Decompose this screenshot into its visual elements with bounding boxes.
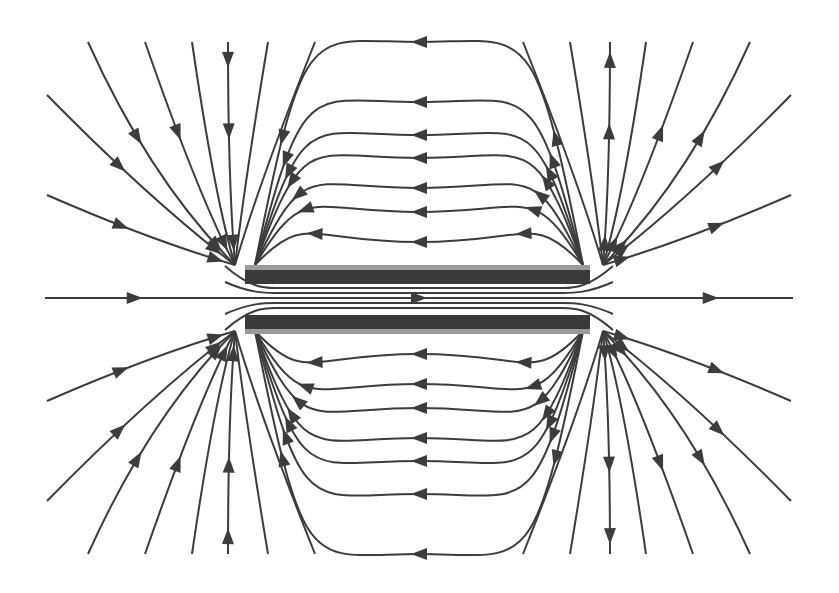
loop-field-line [255, 331, 583, 555]
outer-field-line [228, 331, 235, 554]
loop-field-line [255, 133, 583, 265]
arrow-icon [411, 236, 427, 248]
arrow-icon [411, 206, 427, 218]
arrow-icon [707, 217, 726, 234]
arrow-icon [112, 217, 131, 234]
outer-field-line [88, 42, 235, 265]
arrow-icon [411, 402, 427, 414]
arrow-icon [411, 348, 427, 360]
arrow-icon [652, 454, 669, 473]
outer-field-line [47, 331, 235, 501]
loop-field-line [255, 41, 583, 265]
arrow-icon [275, 449, 291, 467]
arrow-icon [604, 52, 616, 68]
arrow-icon [127, 292, 143, 304]
arrow-icon [603, 123, 615, 139]
outer-field-line [603, 331, 693, 554]
arrow-icon [206, 251, 225, 267]
arrow-icon [411, 432, 427, 444]
field-line-diagram [0, 0, 839, 593]
arrow-icon [296, 201, 315, 218]
loop-field-line [255, 184, 583, 265]
bottom-plate-edge [245, 329, 590, 334]
arrow-icon [548, 449, 564, 467]
arrow-icon [223, 123, 235, 139]
top-plate [245, 270, 590, 284]
arrow-icon [296, 378, 315, 395]
arrow-icon [703, 292, 719, 304]
arrow-icon [222, 52, 234, 68]
arrow-icon [523, 378, 542, 394]
arrow-icon [652, 123, 669, 142]
arrow-icon [206, 329, 225, 345]
arrow-icon [222, 528, 234, 544]
arrow-icon [603, 457, 615, 473]
arrow-icon [523, 201, 542, 217]
loop-field-line [255, 331, 583, 362]
outer-field-line [603, 331, 750, 554]
outer-field-line [603, 331, 791, 501]
outer-field-line [47, 95, 235, 265]
arrow-icon [515, 227, 532, 240]
arrow-icon [411, 488, 427, 500]
arrow-icon [306, 227, 322, 240]
loop-field-line [255, 331, 583, 463]
outer-field-line [603, 42, 750, 265]
loop-field-line [255, 207, 583, 265]
arrow-icon [411, 36, 427, 48]
outer-field-line [603, 95, 791, 265]
arrow-icon [169, 123, 186, 142]
outer-field-line [145, 331, 235, 554]
loop-field-line [255, 331, 583, 412]
arrow-icon [411, 548, 427, 560]
arrow-icon [707, 362, 726, 379]
arrow-icon [411, 129, 427, 141]
outer-field-line [88, 331, 235, 554]
arrow-icon [411, 378, 427, 390]
loop-field-line [255, 331, 583, 389]
arrow-icon [306, 356, 322, 369]
arrow-icon [691, 127, 710, 147]
loop-field-line [255, 234, 583, 265]
outer-field-line [145, 42, 235, 265]
outer-field-line [603, 42, 610, 265]
arrow-icon [169, 454, 186, 473]
arrow-icon [223, 457, 235, 473]
arrow-icon [515, 356, 532, 369]
arrow-icon [548, 128, 564, 146]
arrow-icon [411, 182, 427, 194]
outer-field-line [603, 331, 610, 554]
outer-field-line [603, 42, 693, 265]
arrow-icon [691, 449, 710, 469]
arrow-icon [128, 449, 147, 469]
bottom-plate [245, 315, 590, 329]
arrow-icon [411, 152, 427, 164]
arrow-icon [275, 128, 291, 146]
outer-field-line [228, 42, 235, 265]
arrow-icon [411, 455, 427, 467]
arrow-icon [128, 127, 147, 147]
top-plate-edge [245, 265, 590, 270]
arrow-icon [411, 96, 427, 108]
arrow-icon [112, 362, 131, 379]
arrow-icon [604, 528, 616, 544]
